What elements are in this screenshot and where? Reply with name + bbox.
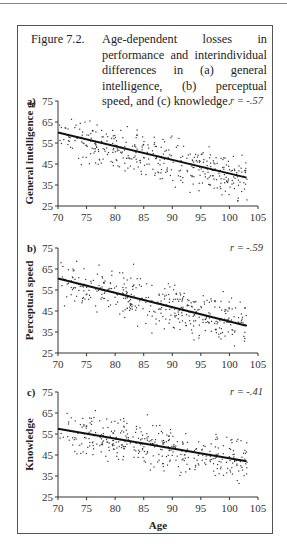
data-point — [231, 298, 232, 299]
data-point — [184, 454, 185, 455]
data-point — [215, 434, 216, 435]
data-point — [116, 159, 117, 160]
data-point — [180, 180, 181, 181]
data-point — [242, 319, 243, 320]
data-point — [236, 441, 237, 442]
data-point — [83, 290, 84, 291]
data-point — [171, 169, 172, 170]
data-point — [186, 464, 187, 465]
data-point — [206, 161, 207, 162]
data-point — [98, 290, 99, 291]
data-point — [182, 177, 183, 178]
y-axis-label: Knowledge — [23, 418, 35, 471]
data-point — [144, 438, 145, 439]
data-point — [223, 445, 224, 446]
data-point — [93, 417, 94, 418]
data-point — [62, 266, 63, 267]
data-point — [178, 314, 179, 315]
data-point — [83, 451, 84, 452]
data-point — [241, 168, 242, 169]
data-point — [91, 421, 92, 422]
data-point — [165, 172, 166, 173]
data-point — [158, 433, 159, 434]
data-point — [72, 437, 73, 438]
data-point — [207, 321, 208, 322]
data-point — [143, 308, 144, 309]
data-point — [125, 287, 126, 288]
data-point — [222, 167, 223, 168]
data-point — [170, 460, 171, 461]
data-point — [229, 194, 230, 195]
data-point — [246, 442, 247, 443]
data-point — [130, 166, 131, 167]
data-point — [244, 475, 245, 476]
data-point — [132, 146, 133, 147]
data-point — [117, 452, 118, 453]
data-point — [221, 178, 222, 179]
data-point — [234, 188, 235, 189]
data-point — [181, 301, 182, 302]
data-point — [233, 183, 234, 184]
data-point — [238, 317, 239, 318]
data-point — [164, 470, 165, 471]
data-point — [182, 299, 183, 300]
data-point — [163, 466, 164, 467]
data-point — [180, 176, 181, 177]
data-point — [87, 146, 88, 147]
data-point — [238, 170, 239, 171]
y-tick-label: 45 — [42, 158, 54, 170]
data-point — [134, 449, 135, 450]
data-point — [74, 437, 75, 438]
data-point — [243, 336, 244, 337]
x-tick-label: 70 — [53, 211, 65, 223]
data-point — [123, 456, 124, 457]
data-point — [242, 155, 243, 156]
x-tick-label: 75 — [81, 358, 93, 370]
data-point — [101, 297, 102, 298]
data-point — [245, 184, 246, 185]
data-point — [234, 331, 235, 332]
data-point — [199, 183, 200, 184]
data-point — [138, 305, 139, 306]
data-point — [148, 436, 149, 437]
data-point — [245, 453, 246, 454]
data-point — [223, 475, 224, 476]
data-point — [235, 307, 236, 308]
data-point — [179, 310, 180, 311]
data-point — [72, 444, 73, 445]
data-point — [162, 463, 163, 464]
data-point — [187, 299, 188, 300]
data-point — [244, 170, 245, 171]
data-point — [132, 289, 133, 290]
data-point — [178, 318, 179, 319]
data-point — [232, 170, 233, 171]
data-point — [161, 431, 162, 432]
data-point — [238, 470, 239, 471]
data-point — [204, 301, 205, 302]
data-point — [102, 442, 103, 443]
data-point — [147, 440, 148, 441]
data-point — [204, 173, 205, 174]
data-point — [203, 159, 204, 160]
data-point — [135, 310, 136, 311]
data-point — [164, 296, 165, 297]
data-point — [101, 434, 102, 435]
data-point — [67, 284, 68, 285]
data-point — [76, 438, 77, 439]
data-point — [123, 431, 124, 432]
data-point — [219, 461, 220, 462]
data-point — [179, 322, 180, 323]
data-point — [102, 276, 103, 277]
data-point — [183, 146, 184, 147]
panel-label: c) — [27, 387, 36, 399]
data-point — [98, 151, 99, 152]
data-point — [92, 441, 93, 442]
data-point — [147, 414, 148, 415]
data-point — [74, 279, 75, 280]
data-point — [238, 165, 239, 166]
data-point — [163, 154, 164, 155]
data-point — [162, 444, 163, 445]
regression-line — [58, 429, 247, 462]
data-point — [128, 301, 129, 302]
data-point — [123, 446, 124, 447]
